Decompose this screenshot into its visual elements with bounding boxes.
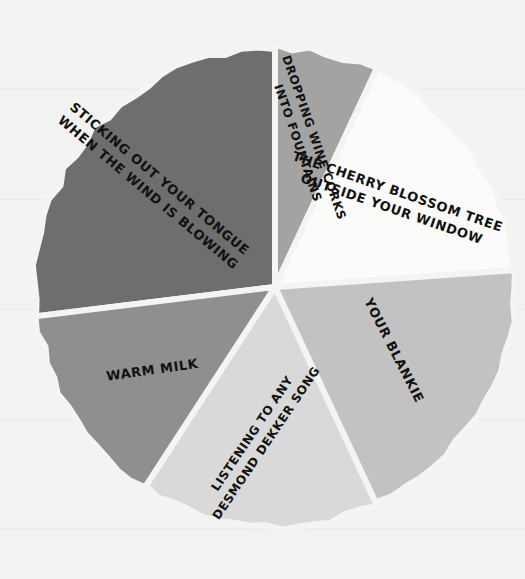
pie-chart: STICKING OUT YOUR TONGUEWHEN THE WIND IS… — [0, 0, 525, 579]
chart-page: STICKING OUT YOUR TONGUEWHEN THE WIND IS… — [0, 0, 525, 579]
pie-slices-group — [33, 44, 515, 529]
